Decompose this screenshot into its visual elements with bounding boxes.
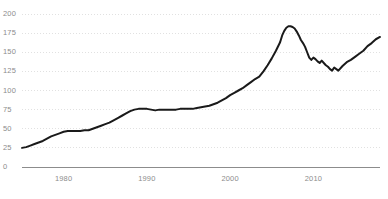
x-tick-label: 1980	[55, 175, 73, 183]
y-tick-label: 125	[3, 67, 16, 75]
x-tick-label: 2000	[221, 175, 239, 183]
chart-plot-area	[0, 0, 388, 199]
gridlines	[22, 14, 380, 148]
y-tick-label: 150	[3, 48, 16, 56]
y-tick-label: 75	[3, 106, 12, 114]
data-series-line	[22, 26, 380, 148]
y-tick-label: 25	[3, 144, 12, 152]
x-tick-label: 2010	[305, 175, 323, 183]
y-tick-label: 175	[3, 29, 16, 37]
y-tick-label: 0	[3, 163, 7, 171]
y-tick-label: 200	[3, 10, 16, 18]
chart-container: 0255075100125150175200 1980199020002010	[0, 0, 388, 199]
y-tick-label: 100	[3, 87, 16, 95]
x-tick-label: 1990	[138, 175, 156, 183]
y-tick-label: 50	[3, 125, 12, 133]
